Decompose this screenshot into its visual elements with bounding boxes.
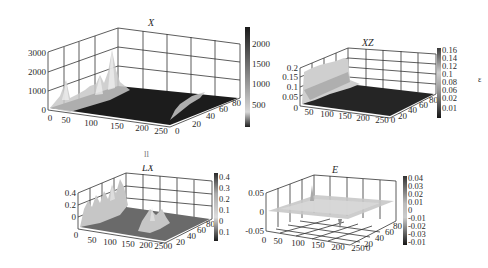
svg-text:250: 250	[154, 126, 168, 136]
svg-text:150: 150	[121, 239, 135, 249]
svg-text:80: 80	[393, 221, 403, 231]
separator-mark: ll	[144, 149, 149, 159]
plot-title: XZ	[361, 37, 374, 48]
svg-text:0.1: 0.1	[287, 82, 298, 92]
svg-text:0: 0	[42, 105, 47, 115]
svg-text:100: 100	[291, 238, 305, 248]
svg-text:50: 50	[274, 236, 284, 246]
plot-title: LX	[141, 165, 155, 173]
colorbar-ticks: 0.16 0.14 0.12 0.1 0.08 0.06 0.02 0.01	[442, 45, 458, 113]
svg-text:0: 0	[175, 126, 180, 136]
svg-text:200: 200	[356, 113, 370, 123]
svg-text:200: 200	[139, 240, 153, 250]
svg-text:1000: 1000	[28, 86, 47, 96]
svg-text:20: 20	[364, 239, 374, 249]
svg-text:100: 100	[103, 237, 117, 247]
svg-text:20: 20	[176, 237, 186, 247]
svg-text:80: 80	[232, 98, 242, 108]
svg-text:0: 0	[294, 103, 299, 113]
svg-text:0: 0	[72, 212, 77, 222]
surface-plot-lx: 0.4 0.2 0 0 50 100 150 200 250 0 20 40 6…	[0, 165, 250, 268]
svg-text:-0.01: -0.01	[408, 237, 426, 247]
svg-text:0.2: 0.2	[65, 200, 76, 210]
svg-text:60: 60	[219, 104, 229, 114]
svg-text:0: 0	[168, 241, 173, 251]
svg-text:200: 200	[331, 242, 345, 252]
svg-text:0: 0	[48, 113, 53, 123]
svg-text:50: 50	[88, 235, 98, 245]
surface-plot-xz: 0.2 0.15 0.1 0.05 0 50 100 150 200 250 0…	[270, 20, 488, 130]
svg-text:0.4: 0.4	[65, 188, 77, 198]
svg-text:50: 50	[305, 107, 315, 117]
svg-text:0.02: 0.02	[442, 93, 457, 103]
svg-text:0: 0	[262, 235, 267, 245]
svg-text:1500: 1500	[252, 59, 271, 69]
svg-text:20: 20	[398, 111, 408, 121]
svg-text:100: 100	[84, 118, 98, 128]
surface-plot-x: 3000 2000 1000 0 0 50 100 150 200 250 0 …	[0, 0, 250, 140]
colorbar-ticks: 0.04 0.03 0.02 0.01 0 -0.01 -0.02 -0.03 …	[408, 173, 426, 247]
colorbar	[437, 48, 441, 118]
colorbar	[214, 173, 218, 241]
svg-text:3000: 3000	[28, 48, 47, 58]
svg-text:2000: 2000	[252, 39, 271, 49]
colorbar-ticks: 0.4 0.3 0.2 0.1 0 0.1	[219, 172, 230, 237]
svg-text:0.1: 0.1	[219, 227, 230, 237]
svg-text:0.1: 0.1	[219, 205, 230, 215]
z-axis-ticks: 0.05 0 -0.05	[245, 188, 264, 236]
svg-text:0: 0	[391, 115, 396, 125]
svg-text:0.05: 0.05	[282, 92, 298, 102]
svg-text:150: 150	[338, 111, 352, 121]
svg-text:40: 40	[375, 233, 385, 243]
svg-text:0: 0	[219, 216, 223, 226]
svg-text:0.4: 0.4	[219, 172, 230, 182]
svg-text:250: 250	[154, 241, 168, 251]
svg-text:0.15: 0.15	[282, 72, 298, 82]
z-axis-ticks: 0.4 0.2 0	[65, 188, 77, 222]
svg-text:0.01: 0.01	[442, 103, 457, 113]
svg-text:0: 0	[260, 207, 265, 217]
svg-text:0.3: 0.3	[219, 183, 230, 193]
svg-text:100: 100	[320, 109, 334, 119]
svg-text:0.05: 0.05	[248, 188, 264, 198]
svg-text:0: 0	[74, 230, 79, 240]
svg-text:60: 60	[419, 100, 429, 110]
svg-text:250: 250	[375, 115, 389, 125]
colorbar	[403, 176, 407, 245]
svg-text:200: 200	[135, 123, 149, 133]
svg-text:150: 150	[110, 121, 124, 131]
svg-text:50: 50	[62, 115, 72, 125]
svg-text:20: 20	[192, 119, 202, 129]
colorbar-label: ε	[478, 75, 482, 84]
surface-plot-e: 0.05 0 -0.05 0 50 100 150 200 250 0 20 4…	[240, 165, 488, 268]
z-axis-ticks: 0.2 0.15 0.1 0.05 0	[282, 63, 298, 113]
svg-text:40: 40	[187, 231, 197, 241]
svg-text:40: 40	[206, 111, 216, 121]
svg-text:150: 150	[311, 240, 325, 250]
svg-text:1000: 1000	[252, 79, 271, 89]
plot-title: E	[331, 165, 338, 175]
svg-text:0.2: 0.2	[219, 194, 230, 204]
svg-text:500: 500	[252, 100, 266, 110]
svg-text:2000: 2000	[28, 67, 47, 77]
surface-spike	[310, 185, 314, 201]
z-axis-ticks: 3000 2000 1000 0	[28, 48, 47, 115]
svg-text:40: 40	[408, 105, 418, 115]
plot-title: X	[147, 17, 155, 28]
